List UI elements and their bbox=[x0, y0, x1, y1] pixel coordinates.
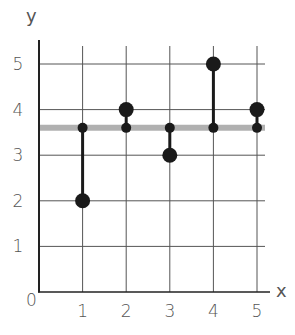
x-tick-label: 4 bbox=[208, 301, 219, 321]
y-axis-label: y bbox=[26, 5, 37, 26]
residual-chart: 1234512345 y x 0 bbox=[0, 0, 295, 335]
data-point bbox=[75, 193, 90, 208]
tick-labels: 1234512345 bbox=[13, 54, 263, 321]
origin-label: 0 bbox=[26, 290, 37, 310]
data-point bbox=[162, 148, 177, 163]
x-tick-label: 3 bbox=[164, 301, 175, 321]
data-point bbox=[119, 102, 134, 117]
x-tick-label: 5 bbox=[252, 301, 263, 321]
data-point bbox=[206, 57, 221, 72]
y-tick-label: 4 bbox=[13, 100, 24, 120]
axes bbox=[38, 40, 270, 293]
grid-lines bbox=[39, 46, 265, 292]
mean-marker bbox=[252, 123, 262, 133]
y-tick-label: 3 bbox=[13, 145, 24, 165]
x-tick-label: 1 bbox=[77, 301, 88, 321]
mean-marker bbox=[165, 123, 175, 133]
y-tick-label: 5 bbox=[13, 54, 24, 74]
x-axis-label: x bbox=[276, 280, 287, 301]
mean-marker bbox=[121, 123, 131, 133]
mean-marker bbox=[208, 123, 218, 133]
y-tick-label: 2 bbox=[13, 191, 24, 211]
x-tick-label: 2 bbox=[121, 301, 132, 321]
y-tick-label: 1 bbox=[13, 236, 24, 256]
mean-marker bbox=[78, 123, 88, 133]
data-point bbox=[250, 102, 265, 117]
